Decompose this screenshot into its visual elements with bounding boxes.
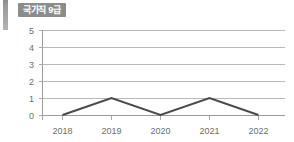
chart-panel: 국가직 9급 bbox=[0, 0, 294, 142]
y-tickmarks bbox=[39, 31, 43, 116]
x-axis-label-2020: 2020 bbox=[150, 126, 170, 136]
y-axis-label-5: 5 bbox=[29, 26, 34, 36]
x-axis-label-2018: 2018 bbox=[52, 126, 72, 136]
y-axis-labels: 5 4 3 2 1 0 bbox=[29, 26, 34, 121]
y-axis-label-0: 0 bbox=[29, 111, 34, 121]
line-chart-svg: 5 4 3 2 1 0 2018 2019 2020 2021 2022 bbox=[0, 22, 294, 142]
x-axis-label-2022: 2022 bbox=[248, 126, 268, 136]
chart-title-badge: 국가직 9급 bbox=[18, 3, 66, 17]
y-axis-label-1: 1 bbox=[29, 94, 34, 104]
y-axis-label-4: 4 bbox=[29, 43, 34, 53]
data-series-line bbox=[63, 98, 259, 115]
x-axis-labels: 2018 2019 2020 2021 2022 bbox=[52, 126, 268, 136]
y-axis-label-3: 3 bbox=[29, 60, 34, 70]
gridlines bbox=[43, 31, 286, 99]
y-axis-label-2: 2 bbox=[29, 77, 34, 87]
x-axis-label-2019: 2019 bbox=[101, 126, 121, 136]
line-chart: 5 4 3 2 1 0 2018 2019 2020 2021 2022 bbox=[0, 22, 294, 142]
x-tickmarks bbox=[43, 116, 259, 121]
x-axis-label-2021: 2021 bbox=[199, 126, 219, 136]
